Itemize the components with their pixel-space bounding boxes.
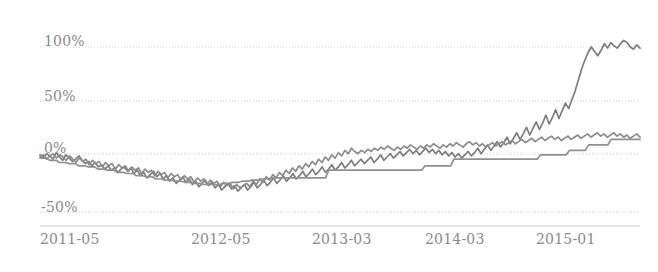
series-line-2 [40,133,640,189]
data-series-group [40,40,640,191]
line-chart: 100%50%0%-50% 2011-052012-052013-032014-… [0,0,658,272]
x-tick-label: 2013-03 [312,231,372,247]
x-tick-label: 2014-03 [425,231,485,247]
y-tick-label: -50% [41,199,78,215]
series-line-3 [40,139,640,184]
x-tick-label: 2011-05 [40,231,100,247]
y-tick-label: 100% [44,33,85,49]
x-tick-label: 2015-01 [536,231,596,247]
x-tick-label: 2012-05 [191,231,251,247]
y-tick-label: 50% [44,88,76,104]
y-tick-label: 0% [44,140,67,156]
